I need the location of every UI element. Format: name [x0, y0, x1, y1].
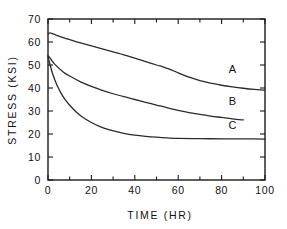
y-tick-label: 60	[28, 36, 41, 48]
curve-b	[48, 56, 243, 120]
y-tick-label: 50	[28, 59, 41, 71]
x-axis-tick-labels: 020406080100	[45, 184, 275, 196]
series-label-a: A	[229, 63, 237, 75]
x-tick-label: 60	[172, 184, 185, 196]
y-tick-label: 0	[35, 174, 41, 186]
y-tick-label: 20	[28, 128, 41, 140]
stress-vs-time-line-chart: 020406080100 010203040506070 ABC TIME (H…	[0, 0, 287, 229]
series-label-b: B	[229, 95, 236, 107]
x-tick-label: 0	[45, 184, 51, 196]
y-axis-title: STRESS (KSI)	[6, 55, 18, 144]
x-tick-label: 80	[215, 184, 228, 196]
x-tick-label: 40	[128, 184, 141, 196]
y-axis-tick-labels: 010203040506070	[28, 13, 41, 186]
chart-page: 020406080100 010203040506070 ABC TIME (H…	[0, 0, 287, 229]
series-label-c: C	[228, 119, 236, 131]
series-labels: ABC	[228, 63, 236, 131]
x-tick-label: 20	[85, 184, 98, 196]
y-tick-label: 70	[28, 13, 41, 25]
x-axis-title: TIME (HR)	[127, 209, 192, 221]
y-tick-label: 40	[28, 82, 41, 94]
x-tick-label: 100	[255, 184, 274, 196]
y-tick-label: 30	[28, 105, 41, 117]
y-tick-label: 10	[28, 151, 41, 163]
